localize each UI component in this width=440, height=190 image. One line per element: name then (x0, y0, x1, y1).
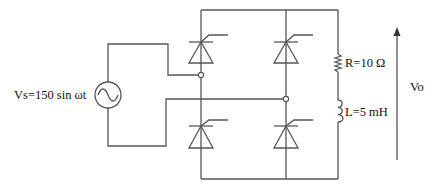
inductor-label: L=5 mH (345, 105, 388, 119)
thyristor-bottom-left-icon (189, 120, 228, 148)
output-voltage-arrow-icon (394, 27, 401, 160)
bridge-rectifier-diagram: Vs=150 sin ωt R=10 Ω L=5 mH Vo (0, 0, 440, 190)
thyristor-bottom-right-icon (274, 120, 313, 148)
ac-source-icon (95, 82, 121, 108)
inductor-icon (338, 100, 343, 122)
thyristor-top-left-icon (189, 35, 228, 63)
node-left (198, 72, 203, 77)
resistor-icon (335, 54, 341, 72)
source-wire-bottom (108, 99, 286, 146)
resistor-label: R=10 Ω (345, 56, 385, 70)
source-label: Vs=150 sin ωt (14, 88, 87, 102)
thyristor-top-right-icon (274, 35, 313, 63)
source-wire-top (108, 44, 201, 82)
node-right (283, 96, 288, 101)
output-voltage-label: Vo (410, 80, 424, 94)
